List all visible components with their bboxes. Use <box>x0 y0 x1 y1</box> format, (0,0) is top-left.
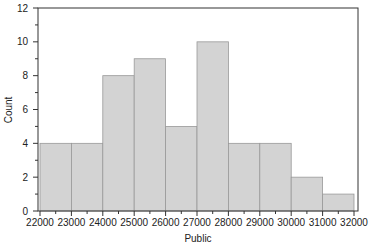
x-tick-label: 28000 <box>214 217 242 228</box>
x-axis: 2200023000240002500026000270002800029000… <box>26 211 368 228</box>
x-tick-label: 31000 <box>309 217 337 228</box>
y-tick-label: 4 <box>22 138 28 149</box>
histogram-bar <box>103 76 134 211</box>
y-axis: 024681012 <box>17 3 38 217</box>
y-axis-label: Count <box>3 96 14 123</box>
histogram-bar <box>291 177 322 211</box>
histogram-bar <box>166 126 197 211</box>
x-tick-label: 29000 <box>246 217 274 228</box>
histogram-bar <box>228 143 259 211</box>
y-tick-label: 6 <box>22 104 28 115</box>
histogram-bar <box>323 194 354 211</box>
x-tick-label: 26000 <box>152 217 180 228</box>
x-tick-label: 22000 <box>26 217 54 228</box>
histogram-bar <box>40 143 71 211</box>
histogram-bar <box>71 143 102 211</box>
x-tick-label: 24000 <box>89 217 117 228</box>
x-axis-label: Public <box>184 233 211 244</box>
histogram-bar <box>134 59 165 211</box>
y-tick-label: 0 <box>22 206 28 217</box>
x-tick-label: 23000 <box>57 217 85 228</box>
y-tick-label: 12 <box>17 3 29 14</box>
x-tick-label: 32000 <box>340 217 368 228</box>
histogram-chart: 024681012 220002300024000250002600027000… <box>0 0 370 248</box>
x-tick-label: 27000 <box>183 217 211 228</box>
histogram-bar <box>197 42 228 211</box>
histogram-bars <box>40 42 354 211</box>
x-tick-label: 30000 <box>277 217 305 228</box>
x-tick-label: 25000 <box>120 217 148 228</box>
y-tick-label: 2 <box>22 172 28 183</box>
histogram-bar <box>260 143 291 211</box>
y-tick-label: 10 <box>17 36 29 47</box>
y-tick-label: 8 <box>22 70 28 81</box>
